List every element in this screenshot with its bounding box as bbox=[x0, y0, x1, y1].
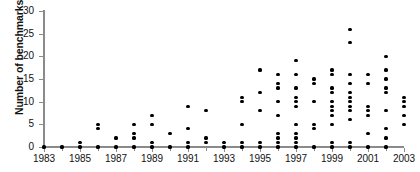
data-point bbox=[150, 141, 153, 144]
data-point bbox=[348, 82, 351, 85]
data-point bbox=[384, 91, 387, 94]
x-tick-mark bbox=[224, 148, 225, 152]
data-point bbox=[366, 109, 369, 112]
data-point bbox=[294, 136, 297, 139]
x-tick-mark bbox=[296, 148, 297, 152]
x-tick-mark bbox=[152, 148, 153, 152]
data-point bbox=[384, 55, 387, 58]
data-point bbox=[402, 123, 405, 126]
data-point bbox=[258, 109, 261, 112]
x-tick-label: 1993 bbox=[207, 154, 241, 164]
x-tick-mark bbox=[404, 148, 405, 152]
x-tick-label: 1999 bbox=[315, 154, 349, 164]
data-point bbox=[402, 105, 405, 108]
data-point bbox=[330, 105, 333, 108]
x-tick-label: 1997 bbox=[279, 154, 313, 164]
data-point bbox=[222, 145, 225, 148]
data-point bbox=[204, 136, 207, 139]
data-point bbox=[384, 68, 387, 71]
data-point bbox=[132, 132, 135, 135]
data-point bbox=[348, 141, 351, 144]
data-point bbox=[150, 145, 153, 148]
data-point bbox=[384, 109, 387, 112]
data-point bbox=[402, 114, 405, 117]
data-point bbox=[348, 28, 351, 31]
data-point bbox=[384, 86, 387, 89]
data-point bbox=[186, 105, 189, 108]
x-tick-label: 1987 bbox=[99, 154, 133, 164]
data-point bbox=[312, 123, 315, 126]
x-tick-mark bbox=[116, 148, 117, 152]
x-tick-label: 2001 bbox=[351, 154, 385, 164]
x-tick-mark bbox=[188, 148, 189, 152]
data-point bbox=[78, 145, 81, 148]
data-point bbox=[276, 82, 279, 85]
data-point bbox=[276, 141, 279, 144]
data-point bbox=[240, 141, 243, 144]
data-point bbox=[366, 145, 369, 148]
data-point bbox=[348, 73, 351, 76]
data-point bbox=[276, 73, 279, 76]
data-point bbox=[348, 91, 351, 94]
data-point bbox=[348, 96, 351, 99]
data-point bbox=[294, 105, 297, 108]
data-point bbox=[330, 100, 333, 103]
data-point bbox=[384, 136, 387, 139]
data-point bbox=[114, 136, 117, 139]
data-point bbox=[96, 123, 99, 126]
x-tick-label: 1989 bbox=[135, 154, 169, 164]
data-point bbox=[114, 145, 117, 148]
x-tick-label: 1985 bbox=[63, 154, 97, 164]
data-point bbox=[330, 68, 333, 71]
data-point bbox=[294, 73, 297, 76]
x-tick-mark bbox=[260, 148, 261, 152]
x-tick-label: 1995 bbox=[243, 154, 277, 164]
data-point bbox=[204, 109, 207, 112]
data-point bbox=[330, 109, 333, 112]
data-point bbox=[132, 145, 135, 148]
data-point bbox=[240, 96, 243, 99]
data-point bbox=[312, 77, 315, 80]
data-point bbox=[294, 123, 297, 126]
data-point bbox=[402, 100, 405, 103]
data-point bbox=[258, 68, 261, 71]
data-point bbox=[294, 96, 297, 99]
data-point bbox=[276, 136, 279, 139]
data-point bbox=[294, 86, 297, 89]
x-tick-label: 1983 bbox=[27, 154, 61, 164]
data-point bbox=[78, 141, 81, 144]
data-point bbox=[276, 86, 279, 89]
x-tick-label: 1991 bbox=[171, 154, 205, 164]
data-point bbox=[330, 145, 333, 148]
data-point bbox=[240, 123, 243, 126]
data-point bbox=[366, 105, 369, 108]
data-point bbox=[330, 123, 333, 126]
data-point bbox=[330, 114, 333, 117]
data-point bbox=[330, 91, 333, 94]
data-point bbox=[348, 105, 351, 108]
data-point bbox=[42, 145, 45, 148]
data-point bbox=[312, 82, 315, 85]
data-point bbox=[96, 145, 99, 148]
data-point bbox=[132, 136, 135, 139]
data-point bbox=[276, 114, 279, 117]
data-point bbox=[222, 141, 225, 144]
data-point bbox=[294, 132, 297, 135]
x-tick-mark bbox=[332, 148, 333, 152]
data-point bbox=[258, 141, 261, 144]
data-point bbox=[312, 145, 315, 148]
data-point bbox=[294, 100, 297, 103]
data-point bbox=[276, 145, 279, 148]
x-tick-mark bbox=[44, 148, 45, 152]
data-point bbox=[348, 100, 351, 103]
data-point bbox=[204, 141, 207, 144]
data-point bbox=[402, 96, 405, 99]
data-point bbox=[276, 100, 279, 103]
data-point bbox=[366, 73, 369, 76]
data-point bbox=[258, 91, 261, 94]
data-point bbox=[240, 100, 243, 103]
data-point bbox=[366, 132, 369, 135]
data-point bbox=[150, 114, 153, 117]
x-tick-mark bbox=[206, 148, 207, 151]
